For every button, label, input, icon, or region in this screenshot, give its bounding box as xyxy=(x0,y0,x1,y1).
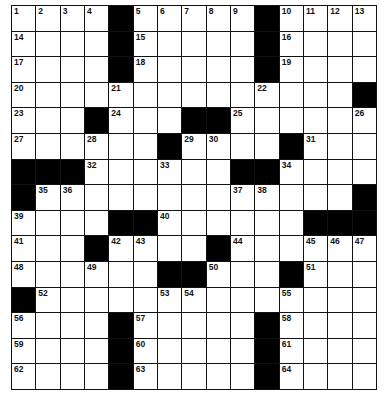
grid-cell[interactable] xyxy=(36,236,59,261)
grid-cell[interactable]: 56 xyxy=(12,313,35,338)
grid-cell[interactable] xyxy=(255,211,278,236)
grid-cell[interactable]: 43 xyxy=(134,236,157,261)
grid-cell[interactable] xyxy=(36,57,59,82)
grid-cell[interactable] xyxy=(61,108,84,133)
grid-cell[interactable] xyxy=(255,108,278,133)
grid-cell[interactable] xyxy=(328,108,351,133)
grid-cell[interactable] xyxy=(304,57,327,82)
grid-cell[interactable] xyxy=(85,57,108,82)
grid-cell[interactable] xyxy=(61,288,84,313)
grid-cell[interactable] xyxy=(134,83,157,108)
grid-cell[interactable] xyxy=(61,134,84,159)
grid-cell[interactable] xyxy=(280,185,303,210)
grid-cell[interactable] xyxy=(182,236,205,261)
grid-cell[interactable]: 33 xyxy=(158,160,181,185)
grid-cell[interactable] xyxy=(36,262,59,287)
grid-cell[interactable] xyxy=(158,108,181,133)
grid-cell[interactable] xyxy=(328,83,351,108)
grid-cell[interactable] xyxy=(182,211,205,236)
grid-cell[interactable] xyxy=(231,83,254,108)
grid-cell[interactable] xyxy=(328,134,351,159)
grid-cell[interactable] xyxy=(255,288,278,313)
grid-cell[interactable] xyxy=(231,134,254,159)
grid-cell[interactable]: 62 xyxy=(12,364,35,389)
grid-cell[interactable] xyxy=(207,211,230,236)
grid-cell[interactable] xyxy=(85,364,108,389)
grid-cell[interactable] xyxy=(304,160,327,185)
grid-cell[interactable] xyxy=(36,83,59,108)
grid-cell[interactable]: 48 xyxy=(12,262,35,287)
grid-cell[interactable] xyxy=(158,313,181,338)
grid-cell[interactable] xyxy=(304,185,327,210)
grid-cell[interactable] xyxy=(353,134,376,159)
grid-cell[interactable] xyxy=(231,32,254,57)
grid-cell[interactable]: 47 xyxy=(353,236,376,261)
grid-cell[interactable] xyxy=(231,211,254,236)
grid-cell[interactable] xyxy=(353,57,376,82)
grid-cell[interactable] xyxy=(304,313,327,338)
grid-cell[interactable] xyxy=(207,339,230,364)
grid-cell[interactable]: 58 xyxy=(280,313,303,338)
grid-cell[interactable]: 1 xyxy=(12,6,35,31)
grid-cell[interactable] xyxy=(61,211,84,236)
grid-cell[interactable]: 12 xyxy=(328,6,351,31)
grid-cell[interactable] xyxy=(182,57,205,82)
grid-cell[interactable] xyxy=(353,32,376,57)
grid-cell[interactable] xyxy=(61,57,84,82)
grid-cell[interactable] xyxy=(182,32,205,57)
grid-cell[interactable]: 23 xyxy=(12,108,35,133)
grid-cell[interactable]: 61 xyxy=(280,339,303,364)
grid-cell[interactable] xyxy=(36,211,59,236)
grid-cell[interactable]: 36 xyxy=(61,185,84,210)
grid-cell[interactable]: 51 xyxy=(304,262,327,287)
grid-cell[interactable] xyxy=(328,364,351,389)
grid-cell[interactable] xyxy=(255,262,278,287)
grid-cell[interactable] xyxy=(207,364,230,389)
grid-cell[interactable]: 28 xyxy=(85,134,108,159)
grid-cell[interactable] xyxy=(255,134,278,159)
grid-cell[interactable]: 24 xyxy=(109,108,132,133)
grid-cell[interactable] xyxy=(304,364,327,389)
grid-cell[interactable]: 6 xyxy=(158,6,181,31)
grid-cell[interactable] xyxy=(328,262,351,287)
grid-cell[interactable] xyxy=(85,288,108,313)
grid-cell[interactable] xyxy=(207,57,230,82)
grid-cell[interactable]: 64 xyxy=(280,364,303,389)
grid-cell[interactable] xyxy=(304,108,327,133)
grid-cell[interactable]: 11 xyxy=(304,6,327,31)
grid-cell[interactable] xyxy=(61,236,84,261)
grid-cell[interactable]: 46 xyxy=(328,236,351,261)
grid-cell[interactable] xyxy=(109,160,132,185)
grid-cell[interactable]: 45 xyxy=(304,236,327,261)
grid-cell[interactable]: 13 xyxy=(353,6,376,31)
grid-cell[interactable] xyxy=(280,211,303,236)
grid-cell[interactable]: 2 xyxy=(36,6,59,31)
grid-cell[interactable] xyxy=(207,288,230,313)
grid-cell[interactable] xyxy=(353,364,376,389)
grid-cell[interactable]: 20 xyxy=(12,83,35,108)
grid-cell[interactable]: 53 xyxy=(158,288,181,313)
grid-cell[interactable]: 32 xyxy=(85,160,108,185)
grid-cell[interactable] xyxy=(109,134,132,159)
grid-cell[interactable] xyxy=(304,32,327,57)
grid-cell[interactable] xyxy=(231,262,254,287)
grid-cell[interactable] xyxy=(328,339,351,364)
grid-cell[interactable] xyxy=(353,262,376,287)
grid-cell[interactable]: 57 xyxy=(134,313,157,338)
grid-cell[interactable] xyxy=(182,83,205,108)
grid-cell[interactable] xyxy=(61,262,84,287)
grid-cell[interactable] xyxy=(61,83,84,108)
grid-cell[interactable]: 15 xyxy=(134,32,157,57)
grid-cell[interactable]: 50 xyxy=(207,262,230,287)
grid-cell[interactable] xyxy=(61,313,84,338)
grid-cell[interactable] xyxy=(158,364,181,389)
grid-cell[interactable] xyxy=(158,185,181,210)
grid-cell[interactable]: 44 xyxy=(231,236,254,261)
grid-cell[interactable] xyxy=(328,57,351,82)
grid-cell[interactable] xyxy=(328,32,351,57)
grid-cell[interactable]: 21 xyxy=(109,83,132,108)
grid-cell[interactable]: 34 xyxy=(280,160,303,185)
grid-cell[interactable] xyxy=(255,236,278,261)
grid-cell[interactable]: 29 xyxy=(182,134,205,159)
grid-cell[interactable] xyxy=(85,83,108,108)
